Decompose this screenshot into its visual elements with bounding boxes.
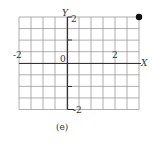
y-tick-label-pos: 2 <box>71 14 77 24</box>
coordinate-plot: Y 2 -2 -2 0 2 X (e) <box>0 0 153 146</box>
figure-caption: (e) <box>56 122 68 132</box>
origin-label: 0 <box>60 54 66 64</box>
data-point <box>136 14 142 20</box>
x-axis-label: X <box>140 58 148 68</box>
y-axis-label: Y <box>62 8 69 18</box>
x-tick-label-neg: -2 <box>13 50 22 60</box>
x-tick-label-pos: 2 <box>112 50 118 60</box>
y-tick-label-neg: -2 <box>73 105 82 115</box>
